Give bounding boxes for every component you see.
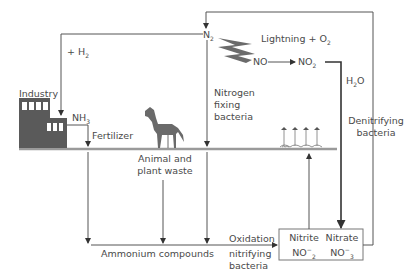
h2-label: + H2 xyxy=(67,46,89,62)
h2o-label: H2O xyxy=(346,75,364,91)
waste-label: Animal and plant waste xyxy=(130,153,200,177)
oxidation-label: Oxidation xyxy=(229,233,275,245)
nitrate-label: Nitrate NO−3 xyxy=(322,232,362,263)
no2-label: NO2 xyxy=(298,56,316,72)
lightning-icon xyxy=(218,38,255,63)
plants-icon xyxy=(280,130,322,147)
factory-icon xyxy=(19,98,67,148)
nitrite-label: Nitrite NO−2 xyxy=(284,232,324,263)
industry-label: Industry xyxy=(19,88,58,100)
no-label: NO xyxy=(253,56,268,68)
nitrogen-fixing-label: Nitrogen fixing bacteria xyxy=(214,87,255,123)
no2-to-nitrate-arrow xyxy=(325,62,341,228)
denitrifying-label: Denitrifying bacteria xyxy=(345,115,407,139)
fertilizer-label: Fertilizer xyxy=(92,130,133,142)
lightning-label: Lightning + O2 xyxy=(261,33,331,49)
ammonium-label: Ammonium compounds xyxy=(101,248,214,260)
n2-label: N2 xyxy=(203,29,214,45)
fertilizer-arrow xyxy=(67,125,88,146)
nitrifying-label: nitrifying bacteria xyxy=(229,248,271,272)
horse-icon xyxy=(145,107,184,148)
nh3-label: NH3 xyxy=(72,112,90,128)
